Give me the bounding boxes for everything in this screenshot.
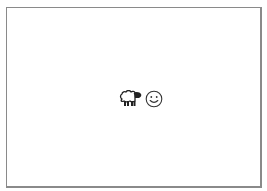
sheep-icon[interactable] [119,90,142,107]
smiley-icon[interactable] [145,90,163,108]
canvas-frame [6,7,262,188]
